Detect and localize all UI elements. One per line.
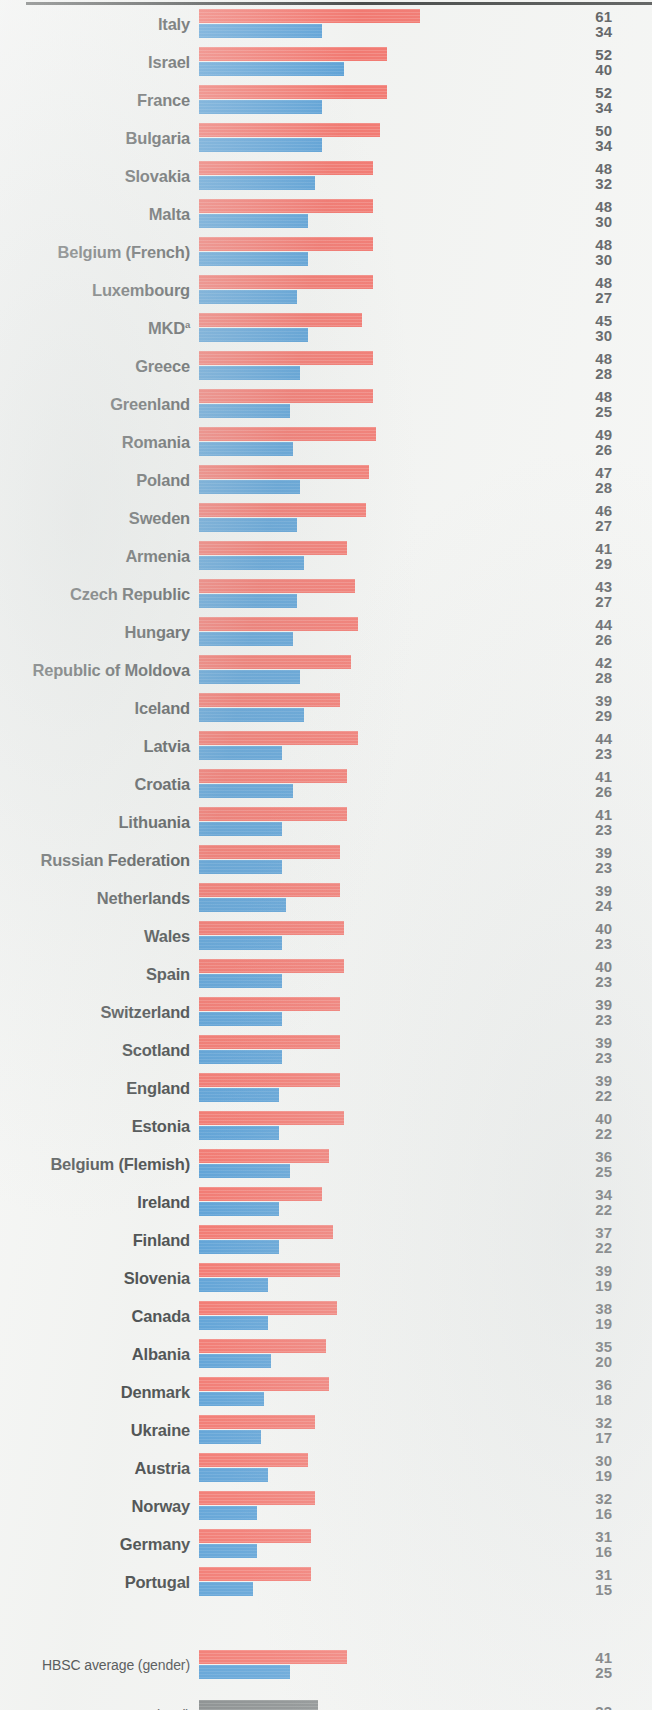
bar-boys: [199, 921, 344, 935]
value-boys: 48: [595, 162, 612, 176]
table-row: Republic of Moldova4228: [0, 651, 652, 689]
bar-girls: [199, 1665, 290, 1679]
table-row: Canada3819: [0, 1297, 652, 1335]
value-labels: 5034: [520, 119, 612, 157]
value-labels: 4125: [520, 1646, 612, 1684]
value-boys: 39: [595, 1074, 612, 1088]
value-girls: 23: [595, 823, 612, 837]
country-label: Iceland: [0, 689, 190, 727]
value-boys: 52: [595, 48, 612, 62]
bar-boys: [199, 503, 366, 517]
table-row: Ireland3422: [0, 1183, 652, 1221]
value-labels: 33: [520, 1696, 612, 1710]
value-labels: 4327: [520, 575, 612, 613]
value-labels: 3922: [520, 1069, 612, 1107]
country-label: Poland: [0, 461, 190, 499]
table-row: Latvia4423: [0, 727, 652, 765]
value-girls: 29: [595, 709, 612, 723]
bar-girls: [199, 214, 308, 228]
bar-boys: [199, 693, 340, 707]
bar-boys: [199, 389, 373, 403]
bar-girls: [199, 328, 308, 342]
table-row: Austria3019: [0, 1449, 652, 1487]
bar-girls: [199, 1316, 268, 1330]
table-row: MKDa4530: [0, 309, 652, 347]
bar-girls: [199, 898, 286, 912]
country-label: France: [0, 81, 190, 119]
value-boys: 31: [595, 1530, 612, 1544]
value-boys: 48: [595, 238, 612, 252]
bar-boys: [199, 351, 373, 365]
value-labels: 3923: [520, 841, 612, 879]
country-label: Canada: [0, 1297, 190, 1335]
table-row: Armenia4129: [0, 537, 652, 575]
bar-boys: [199, 85, 387, 99]
value-boys: 45: [595, 314, 612, 328]
value-labels: 4828: [520, 347, 612, 385]
bar-girls: [199, 1202, 279, 1216]
country-label: Israel: [0, 43, 190, 81]
value-boys: 39: [595, 846, 612, 860]
value-labels: 3919: [520, 1259, 612, 1297]
bar-boys: [199, 769, 347, 783]
value-boys: 35: [595, 1340, 612, 1354]
bar-boys: [199, 1263, 340, 1277]
bar-boys: [199, 275, 373, 289]
bar-boys: [199, 1187, 322, 1201]
value-labels: 4023: [520, 917, 612, 955]
table-row: Bulgaria5034: [0, 119, 652, 157]
country-label: Ukraine: [0, 1411, 190, 1449]
country-label: Sweden: [0, 499, 190, 537]
bar-girls: [199, 974, 282, 988]
bar-boys: [199, 1111, 344, 1125]
bar-girls: [199, 1126, 279, 1140]
bar-girls: [199, 1278, 268, 1292]
value-girls: 29: [595, 557, 612, 571]
table-row: Denmark3618: [0, 1373, 652, 1411]
bar-girls: [199, 404, 290, 418]
value-girls: 25: [595, 1165, 612, 1179]
bar-girls: [199, 1392, 264, 1406]
footnote-marker: a: [185, 319, 190, 330]
value-boys: 48: [595, 352, 612, 366]
bar-boys: [199, 1567, 311, 1581]
value-girls: 34: [595, 139, 612, 153]
bar-girls: [199, 138, 322, 152]
value-labels: 3019: [520, 1449, 612, 1487]
bar-girls: [199, 366, 300, 380]
bar-boys: [199, 1149, 329, 1163]
value-girls: 19: [595, 1469, 612, 1483]
country-label: Bulgaria: [0, 119, 190, 157]
country-label: Luxembourg: [0, 271, 190, 309]
country-label: Albania: [0, 1335, 190, 1373]
table-row: Romania4926: [0, 423, 652, 461]
bar-girls: [199, 176, 315, 190]
country-label: Netherlands: [0, 879, 190, 917]
bar-boys: [199, 1339, 326, 1353]
value-labels: 5240: [520, 43, 612, 81]
value-labels: 3116: [520, 1525, 612, 1563]
bar-girls: [199, 442, 293, 456]
value-boys: 46: [595, 504, 612, 518]
bar-boys: [199, 579, 355, 593]
bar-girls: [199, 556, 304, 570]
value-girls: 15: [595, 1583, 612, 1597]
value-girls: 28: [595, 671, 612, 685]
table-row: Slovakia4832: [0, 157, 652, 195]
bar-boys: [199, 655, 351, 669]
country-label: Hungary: [0, 613, 190, 651]
bar-boys: [199, 807, 347, 821]
value-boys: 48: [595, 276, 612, 290]
country-label: Croatia: [0, 765, 190, 803]
value-girls: 17: [595, 1431, 612, 1445]
table-row: Russian Federation3923: [0, 841, 652, 879]
country-label: Austria: [0, 1449, 190, 1487]
value-labels: 3923: [520, 1031, 612, 1069]
country-label: Portugal: [0, 1563, 190, 1601]
bar-girls: [199, 594, 297, 608]
country-label: Czech Republic: [0, 575, 190, 613]
value-labels: 4123: [520, 803, 612, 841]
value-boys: 40: [595, 1112, 612, 1126]
value-girls: 30: [595, 253, 612, 267]
bar-boys: [199, 123, 380, 137]
